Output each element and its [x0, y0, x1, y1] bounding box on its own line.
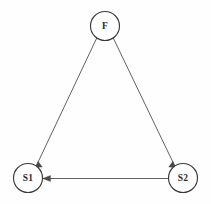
edge-f-to-s1[interactable] [36, 38, 97, 168]
node-f-label: F [102, 21, 108, 31]
node-s1[interactable]: S1 [14, 164, 43, 193]
edge-f-to-s2[interactable] [113, 38, 175, 168]
node-f[interactable]: F [91, 12, 120, 41]
node-s2[interactable]: S2 [169, 164, 198, 193]
node-s2-label: S2 [178, 173, 188, 183]
node-s1-label: S1 [23, 173, 33, 183]
state-transition-graph: F S1 S2 [0, 0, 211, 204]
arrowhead-s2-to-s1 [43, 175, 51, 181]
edge-s2-to-s1[interactable] [43, 175, 169, 181]
edge-f-to-s1-line [36, 38, 97, 166]
diagram-canvas: F S1 S2 [0, 0, 211, 204]
edge-f-to-s2-line [113, 38, 175, 166]
